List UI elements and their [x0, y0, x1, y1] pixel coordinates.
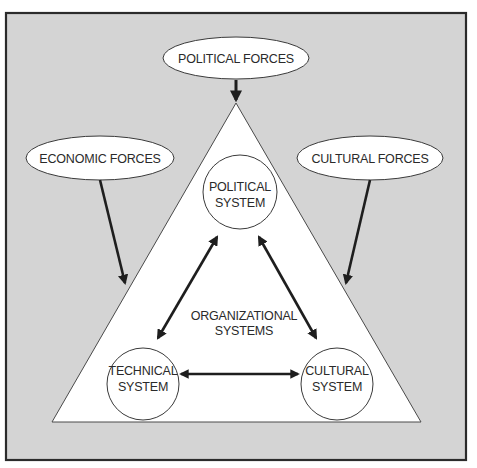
political-system-label-line1: POLITICAL [209, 180, 271, 194]
cultural-system-label-line1: CULTURAL [305, 364, 369, 378]
cultural-forces-label: CULTURAL FORCES [311, 152, 428, 166]
economic-forces-node: ECONOMIC FORCES [26, 136, 174, 180]
political-system-node: POLITICAL SYSTEM [203, 155, 277, 229]
organizational-systems-label-line2: SYSTEMS [215, 324, 273, 338]
cultural-system-label-line2: SYSTEM [312, 380, 362, 394]
political-system-label-line2: SYSTEM [215, 196, 265, 210]
cultural-system-node: CULTURAL SYSTEM [301, 348, 373, 420]
cultural-forces-node: CULTURAL FORCES [297, 136, 443, 180]
organizational-systems-label-line1: ORGANIZATIONAL [191, 309, 298, 323]
technical-system-label-line2: SYSTEM [118, 380, 168, 394]
economic-forces-label: ECONOMIC FORCES [39, 152, 160, 166]
technical-system-label-line1: TECHNICAL [108, 364, 177, 378]
political-forces-node: POLITICAL FORCES [163, 37, 309, 79]
technical-system-node: TECHNICAL SYSTEM [107, 348, 179, 420]
political-forces-label: POLITICAL FORCES [178, 52, 294, 66]
organizational-systems-diagram: POLITICAL FORCES ECONOMIC FORCES CULTURA… [0, 0, 477, 468]
